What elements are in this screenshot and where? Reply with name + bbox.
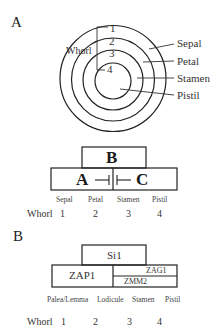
c-function-label: C — [136, 171, 148, 188]
organ-label-petal: Petal — [177, 56, 199, 67]
pistil-leader — [120, 89, 174, 95]
abc-whorl-4: 4 — [157, 209, 162, 219]
maize-organ-lodicule: Lodicule — [97, 296, 124, 304]
abc-whorl-1: 1 — [60, 209, 65, 219]
abc-organ-sepal: Sepal — [56, 196, 73, 204]
ring-number-1: 1 — [110, 23, 116, 34]
maize-whorl-label: Whorl — [27, 317, 53, 327]
maize-whorl-2: 2 — [93, 317, 98, 327]
maize-whorl-3: 3 — [127, 317, 132, 327]
abc-whorl-label: Whorl — [27, 209, 53, 219]
abc-organ-pistil: Pistil — [152, 196, 167, 204]
petal-leader — [143, 61, 174, 62]
si1-label: Si1 — [107, 250, 122, 261]
abc-whorl-3: 3 — [126, 209, 131, 219]
panel-a-letter: A — [11, 15, 22, 30]
abc-organ-petal: Petal — [88, 196, 103, 204]
maize-whorl-1: 1 — [61, 317, 66, 327]
ring-number-2: 2 — [109, 36, 115, 47]
ring-number-4: 4 — [107, 64, 113, 75]
organ-leader-lines — [120, 44, 174, 95]
panel-b-letter: B — [13, 229, 23, 244]
a-function-label: A — [76, 171, 88, 188]
zap1-label: ZAP1 — [69, 270, 95, 281]
organ-label-stamen: Stamen — [177, 73, 210, 84]
maize-organ-pistil: Pistil — [165, 296, 180, 304]
whorl-circle-4 — [95, 63, 131, 99]
organ-label-sepal: Sepal — [177, 38, 201, 49]
ring-number-3: 3 — [109, 48, 115, 59]
sepal-leader — [149, 44, 174, 49]
abc-organ-stamen: Stamen — [117, 196, 140, 204]
maize-whorl-4: 4 — [157, 317, 162, 327]
a-c-box — [51, 168, 177, 190]
circle-whorl-label: Whorl — [66, 46, 92, 56]
organ-label-pistil: Pistil — [177, 90, 200, 101]
maize-organ-stamen: Stamen — [132, 296, 155, 304]
abc-whorl-2: 2 — [93, 209, 98, 219]
whorl-circle-3 — [83, 50, 143, 110]
zag1-label: ZAG1 — [146, 267, 166, 275]
maize-organ-palea-lemma: Palea/Lemma — [47, 296, 88, 304]
b-function-label: B — [106, 149, 117, 166]
zmm2-label: ZMM2 — [124, 278, 147, 286]
